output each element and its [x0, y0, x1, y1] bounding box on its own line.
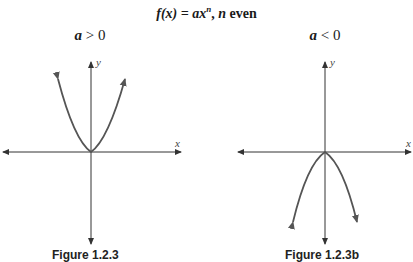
y-axis-label: y — [330, 56, 335, 68]
parabola-down-curve — [325, 152, 357, 222]
x-axis-label: x — [175, 137, 180, 149]
x-axis-label: x — [406, 137, 411, 149]
parabola-up-curve — [91, 79, 125, 152]
parabola-down-curve — [293, 152, 325, 222]
graph-negative — [238, 62, 411, 244]
figure-caption-right: Figure 1.2.3b — [285, 248, 359, 262]
y-axis-label: y — [96, 56, 101, 68]
graph-positive — [3, 62, 181, 244]
figure-caption-left: Figure 1.2.3 — [52, 248, 119, 262]
parabola-up-curve — [58, 79, 91, 152]
